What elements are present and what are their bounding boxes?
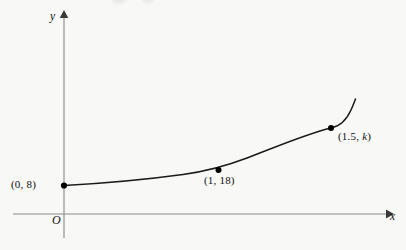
y-axis-label: y: [50, 10, 55, 22]
data-point-1-18: [216, 167, 222, 173]
point-label-paren: ): [367, 130, 371, 142]
point-label-0-8: (0, 8): [11, 178, 36, 190]
origin-label: O: [52, 213, 61, 228]
point-label-1.5-k: (1.5, k): [338, 130, 371, 142]
x-axis-label: x: [390, 210, 395, 222]
graph-figure: (0, 8) (1, 18) (1.5, k) y x O: [0, 0, 406, 250]
y-axis-arrowhead: [60, 10, 69, 18]
point-label-1-18: (1, 18): [204, 174, 235, 186]
exponential-curve-upper: [331, 99, 356, 128]
data-point-0-8: [61, 182, 67, 188]
point-label-text: (1.5,: [338, 130, 362, 142]
data-point-1.5-k: [328, 125, 334, 131]
exponential-curve: [64, 128, 331, 186]
